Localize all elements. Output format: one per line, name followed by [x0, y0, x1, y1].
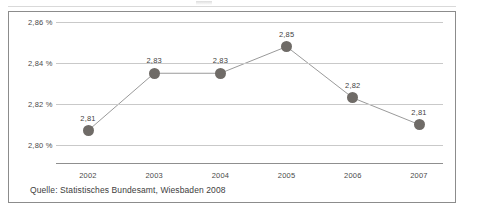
chart-figure: 2,86 %2,84 %2,82 %2,80 %2,8120022,832003…	[0, 0, 479, 212]
data-point-marker[interactable]	[347, 92, 358, 103]
y-axis-tick-label: 2,80 %	[28, 141, 53, 150]
data-point-label: 2,81	[80, 114, 95, 123]
x-axis-tick-label: 2006	[344, 171, 362, 180]
gridline	[56, 22, 443, 23]
y-axis-tick-label: 2,82 %	[28, 100, 53, 109]
data-point-marker[interactable]	[215, 68, 226, 79]
x-axis-tick-label: 2007	[410, 171, 428, 180]
x-axis-tick-label: 2003	[145, 171, 163, 180]
x-axis-line	[56, 163, 443, 164]
y-axis-tick-label: 2,86 %	[28, 18, 53, 27]
data-point-label: 2,81	[411, 108, 426, 117]
gridline	[56, 63, 443, 64]
data-point-marker[interactable]	[414, 119, 425, 130]
source-caption: Quelle: Statistisches Bundesamt, Wiesbad…	[30, 185, 226, 195]
data-point-label: 2,83	[213, 56, 228, 65]
gridline	[56, 104, 443, 105]
data-point-marker[interactable]	[149, 68, 160, 79]
data-point-marker[interactable]	[83, 125, 94, 136]
data-point-label: 2,85	[279, 30, 294, 39]
data-point-label: 2,82	[345, 81, 360, 90]
line-series	[0, 0, 479, 212]
y-axis-tick-label: 2,84 %	[28, 59, 53, 68]
data-point-label: 2,83	[146, 56, 161, 65]
gridline	[56, 145, 443, 146]
data-point-marker[interactable]	[281, 41, 292, 52]
chart-plot-area: 2,86 %2,84 %2,82 %2,80 %2,8120022,832003…	[0, 0, 479, 212]
x-axis-tick-label: 2002	[79, 171, 97, 180]
x-axis-tick-label: 2004	[212, 171, 230, 180]
x-axis-tick-label: 2005	[278, 171, 296, 180]
